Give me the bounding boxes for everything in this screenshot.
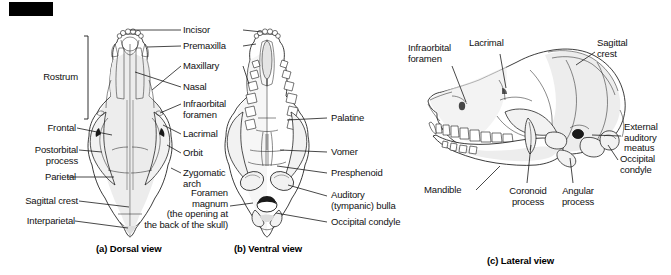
caption-lateral-view: (c) Lateral view bbox=[487, 255, 554, 266]
label-presphenoid: Presphenoid bbox=[331, 168, 411, 179]
caption-ventral-view: (b) Ventral view bbox=[234, 243, 302, 254]
label-frontal: Frontal bbox=[0, 123, 76, 134]
label-postorbital-process: Postorbital process bbox=[0, 145, 78, 166]
label-occipital-condyle-ventral: Occipital condyle bbox=[331, 217, 423, 228]
skull-anatomy-figure: Rostrum Frontal Postorbital process Pari… bbox=[0, 0, 671, 275]
label-sagittal-crest-lateral: Sagittal crest bbox=[597, 38, 649, 59]
lateral-skull-drawing bbox=[428, 49, 625, 167]
label-parietal: Parietal bbox=[0, 172, 76, 183]
label-interparietal: Interparietal bbox=[0, 216, 75, 227]
label-maxillary: Maxillary bbox=[183, 61, 253, 72]
label-palatine: Palatine bbox=[331, 113, 411, 124]
figure-artwork bbox=[0, 0, 671, 275]
label-incisor: Incisor bbox=[183, 25, 253, 36]
label-vomer: Vomer bbox=[331, 147, 411, 158]
caption-dorsal-view: (a) Dorsal view bbox=[96, 243, 162, 254]
label-rostrum: Rostrum bbox=[0, 72, 78, 83]
label-occipital-condyle-lateral: Occipital condyle bbox=[620, 154, 670, 175]
label-infraorbital-foramen: Infraorbital foramen bbox=[183, 99, 255, 120]
label-lacrimal: Lacrimal bbox=[183, 129, 253, 140]
label-infraorbital-foramen-lateral: Infraorbital foramen bbox=[408, 43, 474, 64]
label-foramen-magnum: Foramen magnum (the opening at the back … bbox=[110, 188, 228, 230]
label-orbit: Orbit bbox=[183, 148, 253, 159]
label-angular-process: Angular process bbox=[550, 186, 606, 207]
label-premaxilla: Premaxilla bbox=[183, 41, 253, 52]
label-mandible: Mandible bbox=[424, 185, 480, 196]
label-zygomatic-arch: Zygomatic arch bbox=[183, 168, 245, 189]
label-sagittal-crest: Sagittal crest bbox=[0, 196, 78, 207]
label-nasal: Nasal bbox=[183, 82, 253, 93]
label-external-auditory-meatus: External auditory meatus bbox=[624, 122, 671, 154]
label-auditory-bulla: Auditory (tympanic) bulla bbox=[331, 190, 423, 211]
label-lacrimal-lateral: Lacrimal bbox=[469, 38, 527, 49]
